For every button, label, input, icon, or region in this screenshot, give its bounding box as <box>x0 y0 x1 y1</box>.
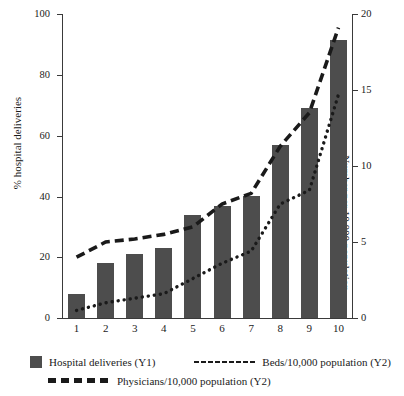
y-axis-right-tick-label: 5 <box>361 237 389 247</box>
legend-row-2: Physicians/10,000 population (Y2) <box>30 371 398 390</box>
x-axis-tick-label: 3 <box>125 322 145 334</box>
x-axis-line <box>62 318 353 319</box>
chart-legend: Hospital deliveries (Y1) Beds/10,000 pop… <box>30 352 398 390</box>
x-axis-tick-label: 5 <box>183 322 203 334</box>
legend-item-physicians[interactable]: Physicians/10,000 population (Y2) <box>48 375 271 387</box>
legend-label: Beds/10,000 population (Y2) <box>262 356 391 368</box>
x-axis-tick-label: 7 <box>241 322 261 334</box>
legend-item-beds[interactable]: Beds/10,000 population (Y2) <box>193 356 391 368</box>
bar <box>155 248 172 318</box>
y-axis-right-tick-label: 10 <box>361 161 389 171</box>
legend-label: Hospital deliveries (Y1) <box>49 356 155 368</box>
y-axis-left-tick-label: 0 <box>22 313 50 323</box>
y-axis-right-tick <box>353 318 358 319</box>
legend-item-hospital-deliveries[interactable]: Hospital deliveries (Y1) <box>30 356 155 368</box>
bar-series-hospital-deliveries <box>62 14 353 318</box>
y-axis-left-title: % hospital deliveries <box>11 78 23 208</box>
legend-row-1: Hospital deliveries (Y1) Beds/10,000 pop… <box>30 352 398 371</box>
y-axis-right-tick <box>353 90 358 91</box>
chart-figure: 100 80 60 40 20 0 % hospital deliveries … <box>0 0 404 396</box>
y-axis-right-tick <box>353 242 358 243</box>
x-axis-tick-label: 9 <box>299 322 319 334</box>
bar <box>68 294 85 318</box>
x-axis-tick-label: 1 <box>67 322 87 334</box>
y-axis-left-tick-label: 40 <box>22 192 50 202</box>
y-axis-right-tick-label: 0 <box>361 313 389 323</box>
y-axis-left-tick-label: 100 <box>22 9 50 19</box>
y-axis-right-tick-label: 15 <box>361 85 389 95</box>
bar <box>272 145 289 318</box>
bar <box>214 206 231 318</box>
y-axis-right-tick-label: 20 <box>361 9 389 19</box>
dotted-line-icon <box>193 360 255 364</box>
bar <box>243 196 260 318</box>
x-axis-tick-label: 4 <box>154 322 174 334</box>
dashed-line-icon <box>48 378 110 383</box>
y-axis-right-tick <box>353 166 358 167</box>
x-axis-tick-label: 10 <box>328 322 348 334</box>
bar-swatch-icon <box>30 356 42 368</box>
y-axis-left-tick <box>57 318 62 319</box>
x-axis-tick-label: 8 <box>270 322 290 334</box>
x-axis-tick-label: 2 <box>96 322 116 334</box>
bar <box>330 40 347 318</box>
bar <box>184 215 201 318</box>
x-axis-tick-labels: 12345678910 <box>62 322 353 338</box>
bar <box>126 254 143 318</box>
x-axis-tick-label: 6 <box>212 322 232 334</box>
y-axis-left-tick-label: 80 <box>22 70 50 80</box>
legend-label: Physicians/10,000 population (Y2) <box>117 375 271 387</box>
bar <box>301 108 318 318</box>
y-axis-right-tick <box>353 14 358 15</box>
y-axis-left-tick-label: 20 <box>22 252 50 262</box>
y-axis-left-tick-label: 60 <box>22 131 50 141</box>
bar <box>97 263 114 318</box>
